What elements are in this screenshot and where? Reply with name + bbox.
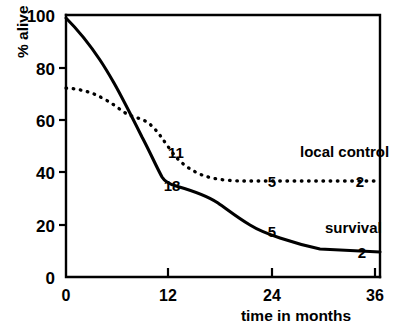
y-tick-label-40: 40: [36, 164, 55, 183]
annotation-local-control-11: 11: [168, 144, 184, 161]
y-tick-label-0: 0: [46, 269, 55, 288]
x-tick-label-12: 12: [159, 287, 177, 304]
series-local-control-line: [66, 88, 380, 181]
x-axis-title: time in months: [241, 307, 351, 324]
x-tick-label-36: 36: [366, 287, 384, 304]
series-label-local-control: local control: [300, 143, 389, 160]
x-tick-label-24: 24: [263, 287, 281, 304]
series-survival-line: [66, 18, 380, 252]
annotation-survival-5: 5: [268, 223, 276, 240]
y-tick-label-20: 20: [36, 217, 55, 236]
y-tick-label-60: 60: [36, 112, 55, 131]
annotation-local-control-2: 2: [356, 173, 364, 190]
x-axis-ticks: [168, 268, 375, 277]
x-tick-label-0: 0: [62, 287, 71, 304]
annotation-survival-2: 2: [358, 244, 366, 261]
survival-curve-chart: 100 80 60 40 20 0 0 12 24 36 % alive tim…: [0, 0, 412, 327]
y-tick-label-80: 80: [36, 60, 55, 79]
annotation-survival-18: 18: [164, 177, 181, 194]
annotation-local-control-5: 5: [268, 173, 276, 190]
y-axis-title: % alive: [14, 5, 31, 58]
series-label-survival: survival: [325, 219, 382, 236]
